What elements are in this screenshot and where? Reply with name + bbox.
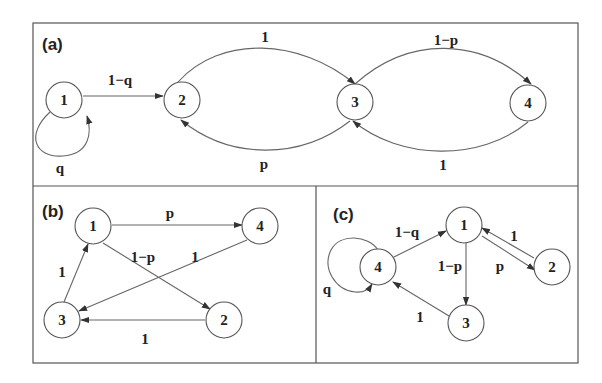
node-a-4: 4 xyxy=(510,85,546,121)
node-c-1: 1 xyxy=(446,207,482,243)
panel-label-b: (b) xyxy=(42,202,64,221)
edge-label-a-1-2: 1−q xyxy=(108,72,133,88)
svg-text:1: 1 xyxy=(460,217,468,233)
edge-a-2-3 xyxy=(178,48,355,84)
panel-label-c: (c) xyxy=(333,205,354,224)
svg-text:4: 4 xyxy=(374,259,382,275)
edge-label-b-2-3: 1 xyxy=(141,331,149,347)
svg-text:1: 1 xyxy=(60,92,68,108)
edge-label-a-3-2: p xyxy=(260,156,268,172)
svg-text:2: 2 xyxy=(220,312,228,328)
edge-label-a-1-1: q xyxy=(56,160,65,176)
edge-label-c-1-3: 1−p xyxy=(438,258,462,274)
edge-label-c-1-2: p xyxy=(496,258,504,274)
panel-b: (b) p 1−p 1 1 1 1 2 3 4 xyxy=(42,202,278,347)
edge-b-3-1 xyxy=(64,244,88,302)
edge-label-b-4-3: 1 xyxy=(191,249,199,265)
node-b-3: 3 xyxy=(44,302,80,338)
node-c-4: 4 xyxy=(360,249,396,285)
edge-label-a-3-4: 1−p xyxy=(434,32,458,48)
edge-label-c-4-1: 1−q xyxy=(395,224,420,240)
edge-label-c-4-4: q xyxy=(323,281,332,297)
edge-a-3-2 xyxy=(181,120,350,150)
node-a-2: 2 xyxy=(164,82,200,118)
edge-a-3-4 xyxy=(355,48,531,84)
svg-text:1: 1 xyxy=(89,218,97,234)
svg-text:3: 3 xyxy=(351,94,359,110)
panel-label-a: (a) xyxy=(42,35,63,54)
svg-text:3: 3 xyxy=(58,312,66,328)
svg-text:2: 2 xyxy=(548,259,556,275)
node-b-1: 1 xyxy=(75,208,111,244)
node-a-3: 3 xyxy=(337,84,373,120)
edge-label-b-1-2: 1−p xyxy=(131,249,155,265)
edge-a-1-1 xyxy=(36,112,89,156)
edge-a-4-3 xyxy=(353,121,528,151)
edge-b-4-3 xyxy=(79,240,247,311)
node-c-3: 3 xyxy=(448,305,484,341)
edge-c-1-2 xyxy=(482,236,535,270)
edge-label-a-4-3: 1 xyxy=(439,157,447,173)
svg-text:4: 4 xyxy=(524,95,532,111)
edge-label-b-1-4: p xyxy=(166,205,174,221)
svg-text:3: 3 xyxy=(462,315,470,331)
edge-c-2-1 xyxy=(482,228,534,258)
node-c-2: 2 xyxy=(534,249,570,285)
svg-text:4: 4 xyxy=(256,218,264,234)
edge-label-c-2-1: 1 xyxy=(510,228,518,244)
node-b-2: 2 xyxy=(206,302,242,338)
edge-label-c-3-4: 1 xyxy=(416,309,424,325)
markov-chain-figure: (a) q 1−q 1 p 1−p 1 1 2 3 4 xyxy=(0,0,602,383)
edge-label-b-3-1: 1 xyxy=(58,264,66,280)
edge-label-a-2-3: 1 xyxy=(261,29,269,45)
node-a-1: 1 xyxy=(46,82,82,118)
node-b-4: 4 xyxy=(242,208,278,244)
svg-text:2: 2 xyxy=(178,92,186,108)
panel-a: (a) q 1−q 1 p 1−p 1 1 2 3 4 xyxy=(36,29,546,176)
panel-c: (c) q 1−q 1−p p 1 1 1 2 3 4 xyxy=(323,205,570,341)
